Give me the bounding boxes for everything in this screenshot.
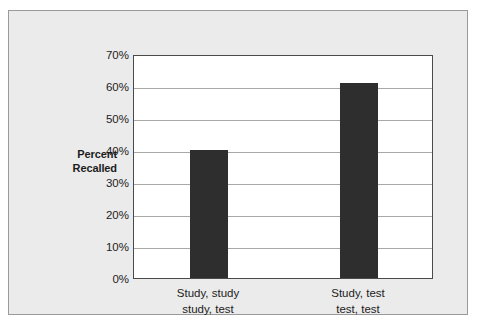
x-axis-category-labels: Study, studystudy, testStudy, testtest, … — [133, 285, 433, 325]
y-axis-tick-label: 50% — [95, 113, 129, 125]
y-axis-tick-label: 10% — [95, 241, 129, 253]
y-axis-tick-label: 0% — [95, 273, 129, 285]
y-axis-tick-label: 70% — [95, 49, 129, 61]
x-axis-category-label-line: study, test — [133, 301, 283, 317]
bar-series — [134, 56, 432, 278]
x-axis-category-label: Study, studystudy, test — [133, 285, 283, 317]
x-axis-category-label: Study, testtest, test — [283, 285, 433, 317]
x-axis-category-label-line: Study, study — [133, 285, 283, 301]
y-axis-tick-label: 40% — [95, 145, 129, 157]
y-axis-tick-label: 30% — [95, 177, 129, 189]
bar — [340, 83, 378, 278]
bar — [190, 150, 228, 278]
x-axis-category-label-line: Study, test — [283, 285, 433, 301]
chart-figure: PercentRecalled 0%10%20%30%40%50%60%70% … — [8, 10, 468, 315]
x-axis-category-label-line: test, test — [283, 301, 433, 317]
y-axis-tick-labels: 0%10%20%30%40%50%60%70% — [95, 11, 129, 327]
y-axis-tick-label: 60% — [95, 81, 129, 93]
plot-area — [133, 55, 433, 279]
y-axis-tick-label: 20% — [95, 209, 129, 221]
